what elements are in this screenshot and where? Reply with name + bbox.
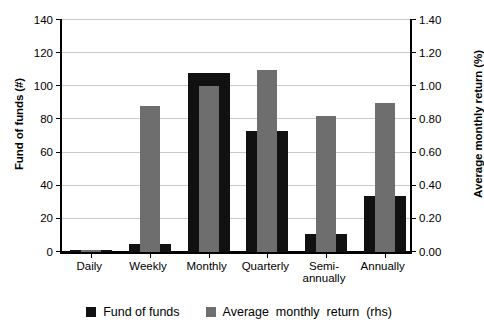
y-tick-label-right: 1.00 <box>419 81 441 93</box>
y-tick-label-left: 40 <box>40 180 53 192</box>
y-tick-label-left: 100 <box>34 81 53 93</box>
bar-group <box>238 20 297 252</box>
y-tick-label-left: 120 <box>34 47 53 59</box>
y-axis-title-left: Fund of funds (#) <box>13 49 25 199</box>
x-axis-label-weekly: Weekly <box>119 260 178 272</box>
plot-area: 020406080100120140 0.000.200.400.600.801… <box>60 20 412 252</box>
bar-average-monthly-return <box>375 103 395 252</box>
x-axis-label-semi--annually: Semi- annually <box>295 260 354 284</box>
bar-group <box>355 20 414 252</box>
bar-group <box>179 20 238 252</box>
y-tick-label-right: 0.40 <box>419 180 441 192</box>
x-axis-baseline <box>60 251 412 254</box>
bar-average-monthly-return <box>140 106 160 252</box>
gray-square-icon <box>206 307 216 317</box>
y-tick-label-right: 0.60 <box>419 147 441 159</box>
bar-average-monthly-return <box>199 86 219 252</box>
bar-average-monthly-return <box>257 70 277 252</box>
y-tick-label-right: 0.80 <box>419 114 441 126</box>
y-tick-label-left: 140 <box>34 14 53 26</box>
y-axis-title-right: Average monthly return (%) <box>472 29 484 219</box>
x-axis-label-quarterly: Quarterly <box>236 260 295 272</box>
bar-group <box>297 20 356 252</box>
y-tick-label-right: 0.00 <box>419 246 441 258</box>
chart-legend: Fund of fundsAverage monthly return (rhs… <box>0 305 478 319</box>
y-tick-label-right: 0.20 <box>419 213 441 225</box>
legend-item: Average monthly return (rhs) <box>206 305 392 319</box>
x-axis-label-daily: Daily <box>60 260 119 272</box>
x-axis-label-monthly: Monthly <box>177 260 236 272</box>
y-tick-label-right: 1.20 <box>419 47 441 59</box>
legend-label: Average monthly return (rhs) <box>223 305 392 319</box>
y-tick-label-left: 20 <box>40 213 53 225</box>
y-tick-label-left: 80 <box>40 114 53 126</box>
bar-group <box>62 20 121 252</box>
bar-group <box>121 20 180 252</box>
legend-item: Fund of funds <box>86 305 179 319</box>
bar-average-monthly-return <box>316 116 336 252</box>
x-axis-label-annually: Annually <box>353 260 412 272</box>
y-tick-label-left: 60 <box>40 147 53 159</box>
black-square-icon <box>86 307 96 317</box>
legend-label: Fund of funds <box>103 305 179 319</box>
y-tick-label-left: 0 <box>47 246 53 258</box>
plot-inner: 020406080100120140 0.000.200.400.600.801… <box>62 20 410 252</box>
bar-average-monthly-return <box>81 250 101 252</box>
y-tick-label-right: 1.40 <box>419 14 441 26</box>
